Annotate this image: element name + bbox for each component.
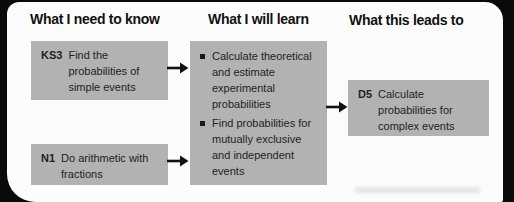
learn-box: Calculate theoretical and estimate exper… (190, 41, 327, 185)
diagram-stage: What I need to know What I will learn Wh… (0, 0, 514, 202)
bullet-square-icon (200, 54, 205, 59)
learn-bullet-1-text: Calculate theoretical and estimate exper… (212, 48, 312, 112)
n1-text: Do arithmetic with fractions (61, 150, 148, 185)
ks3-code: KS3 (41, 47, 62, 100)
column-heading-will-learn: What I will learn (208, 11, 309, 27)
arrow-right-icon (326, 100, 348, 114)
page-edge-shadow (355, 188, 480, 192)
learn-bullet-2-text: Find probabilities for mutually exclusiv… (212, 115, 311, 179)
d5-box: D5 Calculate probabilities for complex e… (348, 80, 489, 136)
n1-box: N1 Do arithmetic with fractions (31, 144, 168, 185)
learn-bullet-1: Calculate theoretical and estimate exper… (200, 48, 323, 112)
arrow-right-icon (167, 61, 189, 75)
n1-code: N1 (41, 150, 55, 185)
d5-text: Calculate probabilities for complex even… (378, 86, 454, 136)
column-heading-leads-to: What this leads to (349, 12, 463, 28)
arrow-right-icon (167, 154, 189, 168)
bullet-square-icon (200, 121, 205, 126)
learn-bullet-2: Find probabilities for mutually exclusiv… (200, 115, 323, 179)
ks3-box: KS3 Find the probabilities of simple eve… (31, 41, 168, 100)
ks3-text: Find the probabilities of simple events (68, 47, 139, 100)
d5-code: D5 (358, 86, 372, 136)
column-heading-need-to-know: What I need to know (30, 11, 160, 27)
